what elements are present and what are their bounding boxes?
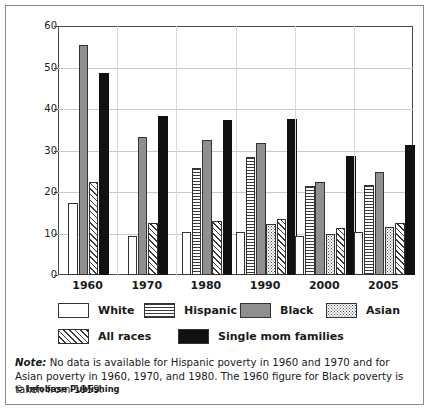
bar <box>138 137 148 275</box>
legend-swatch <box>326 303 357 318</box>
x-axis-tick-label: 1980 <box>176 279 236 292</box>
bar <box>364 185 374 275</box>
legend-label: All races <box>98 330 151 343</box>
bar <box>405 145 415 275</box>
legend-label: Asian <box>366 304 400 317</box>
bar <box>148 223 158 275</box>
bar <box>256 143 266 275</box>
bar <box>395 223 405 275</box>
group-separator <box>176 26 177 275</box>
x-axis-tick-label: 1960 <box>58 279 118 292</box>
bar <box>295 236 305 275</box>
bar <box>385 227 395 275</box>
bar <box>246 157 256 275</box>
bar <box>305 186 315 275</box>
bar <box>128 236 138 275</box>
legend-swatch <box>240 303 271 318</box>
bar <box>79 45 89 275</box>
chart-figure: Percent Below Poverty Line 0102030405060… <box>5 5 424 405</box>
copyright-notice: © Infobase Publishing <box>15 384 120 394</box>
bar <box>375 172 385 275</box>
bar-group <box>58 26 117 275</box>
bar <box>326 234 336 275</box>
legend-item-asian[interactable]: Asian <box>326 299 400 321</box>
y-axis-tick-label: 10 <box>17 229 57 239</box>
footnote-label: Note: <box>15 357 46 368</box>
bar <box>354 232 364 275</box>
bar <box>89 182 99 275</box>
legend-item-single-mom-families[interactable]: Single mom families <box>178 325 344 347</box>
legend-swatch <box>58 303 89 318</box>
bar <box>212 221 222 275</box>
y-axis-tick-mark <box>54 275 58 276</box>
y-axis-tick-label: 20 <box>17 187 57 197</box>
bar-group <box>176 26 235 275</box>
bar <box>223 120 233 275</box>
legend-row-primary: WhiteHispanicBlackAsian <box>58 299 418 321</box>
group-separator <box>117 26 118 275</box>
bar <box>277 219 287 275</box>
legend-label: Hispanic <box>184 304 237 317</box>
x-axis-tick-label: 2000 <box>294 279 354 292</box>
plot-area: 0102030405060 <box>58 26 413 275</box>
bar-group <box>117 26 176 275</box>
y-axis-tick-label: 60 <box>17 21 57 31</box>
legend-swatch <box>58 329 89 344</box>
x-axis-tick-label: 1990 <box>235 279 295 292</box>
legend-item-all-races[interactable]: All races <box>58 325 151 347</box>
bar <box>192 168 202 275</box>
legend-row-secondary: All racesSingle mom families <box>58 325 418 347</box>
bar-group <box>295 26 354 275</box>
bar <box>266 224 276 275</box>
y-axis-tick-label: 30 <box>17 146 57 156</box>
bar <box>202 140 212 275</box>
legend-item-white[interactable]: White <box>58 299 134 321</box>
y-axis-tick-label: 40 <box>17 104 57 114</box>
bar <box>68 203 78 275</box>
bar <box>336 228 346 275</box>
x-axis-tick-label: 1970 <box>117 279 177 292</box>
y-axis-tick-label: 50 <box>17 63 57 73</box>
legend-swatch <box>144 303 175 318</box>
chart-legend: WhiteHispanicBlackAsian All racesSingle … <box>58 299 418 351</box>
bar <box>315 182 325 275</box>
legend-swatch <box>178 329 209 344</box>
legend-label: Single mom families <box>218 330 344 343</box>
legend-label: White <box>98 304 134 317</box>
bar-group <box>236 26 295 275</box>
bar <box>182 232 192 275</box>
bar <box>158 116 168 275</box>
legend-item-black[interactable]: Black <box>240 299 313 321</box>
legend-item-hispanic[interactable]: Hispanic <box>144 299 237 321</box>
legend-label: Black <box>280 304 313 317</box>
y-axis-tick-label: 0 <box>17 270 57 280</box>
bar <box>236 232 246 275</box>
bar-group <box>354 26 413 275</box>
x-axis-tick-label: 2005 <box>353 279 413 292</box>
bar <box>99 73 109 275</box>
